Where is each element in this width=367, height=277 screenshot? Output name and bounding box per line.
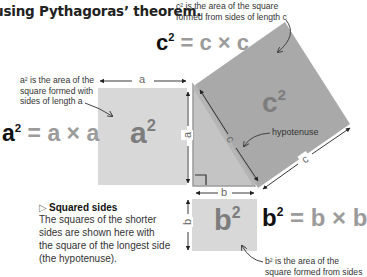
formula-c-rest: = c × c <box>174 30 249 55</box>
a-note-line: a² is the area of the <box>20 75 94 86</box>
b-note-line: square formed from sides <box>265 267 362 277</box>
caption-title: ▷Squared sides <box>39 202 170 213</box>
formula-b-lead: b2 <box>262 204 283 231</box>
formula-a: a2 = a × a <box>2 120 99 147</box>
a-note-line: sides of length a <box>20 96 94 107</box>
c-note-line: c² is the area of the square <box>176 1 287 12</box>
caption: ▷Squared sides The squares of the shorte… <box>39 202 170 265</box>
square-c-label: c2 <box>262 86 286 119</box>
caption-body: The squares of the shorter sides are sho… <box>39 213 170 265</box>
dim-a-side: a <box>181 130 193 140</box>
formula-a-lead: a2 <box>2 120 21 146</box>
hypotenuse-label: hypotenuse <box>272 127 319 138</box>
dim-b-side: b <box>181 217 193 227</box>
a-area-note: a² is the area of the square formed with… <box>20 75 94 107</box>
headline: using Pythagoras’ theorem. <box>0 3 201 19</box>
a-note-line: square formed with <box>20 86 94 97</box>
formula-a-rest: = a × a <box>21 120 99 146</box>
triangle-pointer-icon: ▷ <box>39 202 47 213</box>
caption-line: (the hypotenuse). <box>39 252 170 265</box>
formula-b-rest: = b × b <box>283 204 367 231</box>
formula-c: c2 = c × c <box>156 30 249 56</box>
dim-a-top: a <box>137 73 147 85</box>
square-a-label: a2 <box>130 116 156 150</box>
b-note-line: b² is the area of the <box>265 256 362 267</box>
c-area-note: c² is the area of the square formed from… <box>176 1 287 22</box>
caption-line: the square of the longest side <box>39 239 170 252</box>
formula-c-lead: c2 <box>156 30 174 55</box>
b-area-note: b² is the area of the square formed from… <box>265 256 362 277</box>
formula-b: b2 = b × b <box>262 204 367 232</box>
square-b-label: b2 <box>214 204 241 237</box>
c-note-line: formed from sides of length c <box>176 12 287 23</box>
caption-line: sides are shown here with <box>39 226 170 239</box>
dim-b-bottom: b <box>219 186 229 198</box>
caption-line: The squares of the shorter <box>39 213 170 226</box>
